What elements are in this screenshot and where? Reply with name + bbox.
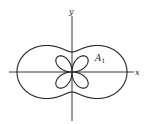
region-label-subscript: 1: [102, 57, 106, 64]
region-label-a1: A1: [94, 53, 105, 64]
x-axis-label: x: [135, 68, 140, 77]
y-axis-label: y: [68, 7, 74, 16]
polar-curves-diagram: x y A1: [0, 0, 145, 124]
